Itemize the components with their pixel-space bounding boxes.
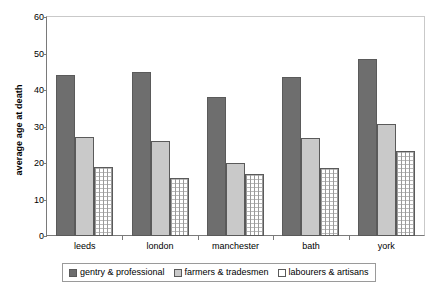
- bar: [245, 174, 264, 236]
- y-axis-tick-label: 10: [0, 195, 44, 204]
- bar: [75, 137, 94, 236]
- x-axis-label: bath: [302, 241, 320, 251]
- x-axis-label: london: [147, 241, 174, 251]
- legend-item: labourers & artisans: [278, 268, 369, 277]
- bar: [94, 167, 113, 236]
- x-axis-label: leeds: [74, 241, 96, 251]
- y-axis-tick-label: 20: [0, 159, 44, 168]
- bar: [358, 59, 377, 236]
- x-axis-tick-mark: [273, 236, 274, 240]
- legend-swatch-icon: [174, 269, 182, 277]
- bar-group: [47, 17, 122, 236]
- plot-area: [47, 17, 424, 236]
- bar-chart: average age at death 0102030405060 leeds…: [0, 0, 436, 294]
- bar: [396, 151, 415, 236]
- chart-legend: gentry & professionalfarmers & tradesmen…: [62, 263, 376, 282]
- bar: [170, 178, 189, 236]
- bar: [151, 141, 170, 236]
- bar-group: [273, 17, 348, 236]
- y-axis-tick-mark: [43, 236, 47, 237]
- y-axis-tick-label: 60: [0, 13, 44, 22]
- legend-item-label: gentry & professional: [80, 268, 165, 277]
- bar: [282, 77, 301, 236]
- legend-swatch-icon: [69, 269, 77, 277]
- bar-group: [198, 17, 273, 236]
- legend-item-label: labourers & artisans: [289, 268, 369, 277]
- bar: [56, 75, 75, 236]
- bar: [301, 138, 320, 236]
- bar: [226, 163, 245, 236]
- legend-item-label: farmers & tradesmen: [185, 268, 269, 277]
- y-axis-tick-label: 30: [0, 122, 44, 131]
- y-axis-tick-label: 0: [0, 232, 44, 241]
- x-axis-label: york: [378, 241, 395, 251]
- legend-item: gentry & professional: [69, 268, 165, 277]
- y-axis-tick-label: 40: [0, 86, 44, 95]
- y-axis-tick-label: 50: [0, 49, 44, 58]
- bar-group: [122, 17, 197, 236]
- bar: [132, 72, 151, 236]
- bar: [320, 168, 339, 236]
- x-axis-tick-mark: [122, 236, 123, 240]
- x-axis-tick-mark: [198, 236, 199, 240]
- x-axis-label: manchester: [212, 241, 259, 251]
- legend-item: farmers & tradesmen: [174, 268, 269, 277]
- legend-swatch-icon: [278, 269, 286, 277]
- bar-group: [349, 17, 424, 236]
- x-axis-tick-mark: [349, 236, 350, 240]
- bar: [207, 97, 226, 236]
- bar: [377, 124, 396, 236]
